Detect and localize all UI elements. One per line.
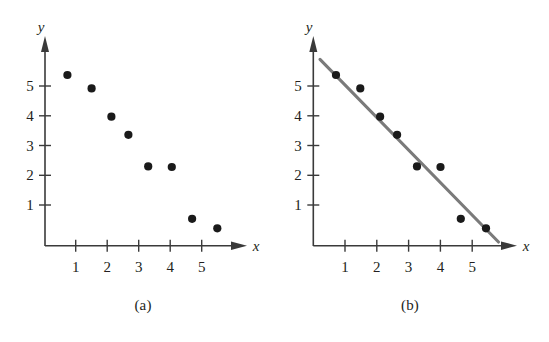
x-tick-label-5: 5 [468,259,476,275]
data-point [457,215,465,223]
data-point [144,162,152,170]
x-tick-label-4: 4 [437,259,445,275]
data-point [213,224,221,232]
y-tick-label-3: 3 [26,138,34,154]
data-point [332,71,340,79]
x-tick-label-3: 3 [405,259,413,275]
y-tick-label-4: 2 [294,167,302,183]
data-points-a [63,71,221,233]
y-tick-label-4: 2 [26,167,34,183]
y-tick-label-5: 1 [26,197,34,213]
panel-caption-b: (b) [269,297,547,314]
regression-line [320,59,499,242]
data-point [168,163,176,171]
panel-caption-a: (a) [0,297,280,314]
y-axis-a [41,36,49,246]
data-point [356,84,364,92]
x-tick-label-1: 1 [341,259,349,275]
data-point [88,84,96,92]
y-tick-label-1: 5 [26,78,34,94]
data-point [393,131,401,139]
data-point [436,163,444,171]
data-point [376,113,384,121]
data-point [107,113,115,121]
scatterplot-a: 5 4 3 2 1 1 2 3 4 5 y x [0,0,274,300]
x-axis-label-a: x [252,238,260,254]
figure-container: 5 4 3 2 1 1 2 3 4 5 y x [0,0,549,342]
y-tick-label-2: 4 [26,108,34,124]
x-tick-label-5: 5 [198,259,206,275]
y-axis-label-a: y [36,19,45,35]
y-tick-label-3: 3 [294,138,302,154]
data-point [413,162,421,170]
x-tick-label-4: 4 [166,259,174,275]
x-axis-b [313,242,517,250]
x-tick-label-2: 2 [103,259,111,275]
data-point [482,224,490,232]
scatterplot-b: 5 4 3 2 1 1 2 3 4 5 y x [269,0,549,300]
panel-a: 5 4 3 2 1 1 2 3 4 5 y x [0,0,274,342]
y-tick-label-2: 4 [294,108,302,124]
data-point [188,215,196,223]
x-tick-label-2: 2 [373,259,381,275]
data-point [124,131,132,139]
x-tick-label-1: 1 [72,259,80,275]
y-tick-label-1: 5 [294,78,302,94]
x-tick-label-3: 3 [135,259,143,275]
data-point [63,71,71,79]
y-axis-b [309,36,317,246]
y-axis-label-b: y [304,19,313,35]
x-axis-label-b: x [522,238,530,254]
panel-b: 5 4 3 2 1 1 2 3 4 5 y x [269,0,543,342]
y-tick-label-5: 1 [294,197,302,213]
